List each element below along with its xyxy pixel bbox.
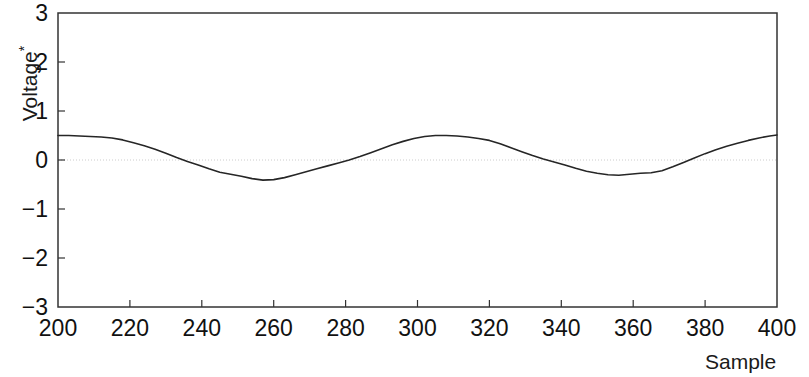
y-tick-label: 0 xyxy=(0,149,48,172)
x-tick-label: 260 xyxy=(255,317,293,340)
x-tick-label: 400 xyxy=(758,317,796,340)
y-tick-label: −2 xyxy=(0,247,48,270)
x-tick-label: 380 xyxy=(686,317,724,340)
y-axis-title-superscript: * xyxy=(16,46,32,51)
y-axis-title: Voltage* xyxy=(17,24,40,144)
x-axis-title: Sample xyxy=(705,351,776,372)
x-tick-label: 300 xyxy=(398,317,436,340)
y-axis-title-text: Voltage xyxy=(18,51,41,121)
chart-figure: 3210−1−2−3 20022024026028030032034036038… xyxy=(0,0,809,377)
x-tick-label: 340 xyxy=(542,317,580,340)
x-tick-label: 280 xyxy=(326,317,364,340)
x-tick-label: 220 xyxy=(111,317,149,340)
x-tick-label: 360 xyxy=(614,317,652,340)
x-tick-label: 320 xyxy=(470,317,508,340)
y-tick-label: −1 xyxy=(0,198,48,221)
y-tick-label: 3 xyxy=(0,2,48,25)
x-tick-label: 240 xyxy=(183,317,221,340)
x-tick-label: 200 xyxy=(39,317,77,340)
